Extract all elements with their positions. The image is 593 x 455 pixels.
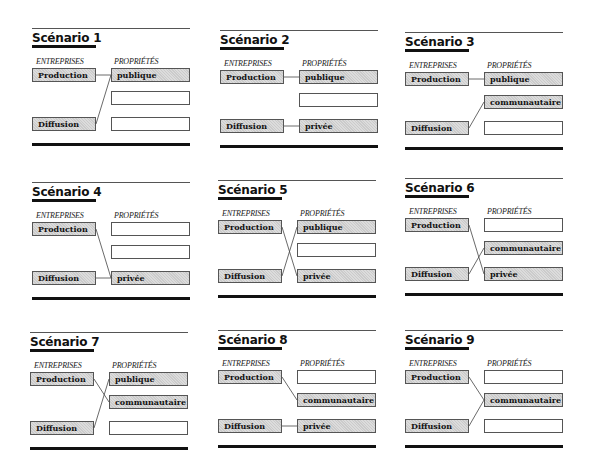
proprietes-header: PROPRIÉTÉS bbox=[487, 359, 531, 368]
title-underline bbox=[32, 199, 96, 202]
production-box: Production bbox=[220, 70, 284, 84]
property-box-1 bbox=[297, 370, 376, 384]
entreprises-header: ENTREPRISES bbox=[36, 57, 84, 66]
proprietes-header: PROPRIÉTÉS bbox=[300, 359, 344, 368]
entreprises-header: ENTREPRISES bbox=[409, 61, 457, 70]
proprietes-header: PROPRIÉTÉS bbox=[114, 211, 158, 220]
property-box-1: publique bbox=[297, 220, 376, 234]
title-underline bbox=[32, 45, 96, 48]
bottom-rule bbox=[32, 143, 190, 146]
property-box-2: communautaire bbox=[484, 95, 563, 109]
scenario-title: Scénario 1 bbox=[32, 31, 101, 45]
property-box-3: privée bbox=[297, 269, 376, 283]
title-underline bbox=[218, 347, 282, 350]
bottom-rule bbox=[220, 145, 378, 148]
scenario-panel-5: Scénario 5ENTREPRISESPROPRIÉTÉSProductio… bbox=[218, 180, 378, 305]
scenario-panel-6: Scénario 6ENTREPRISESPROPRIÉTÉSProductio… bbox=[405, 178, 565, 303]
property-box-2 bbox=[299, 93, 378, 107]
scenario-panel-3: Scénario 3ENTREPRISESPROPRIÉTÉSProductio… bbox=[405, 32, 565, 157]
title-underline bbox=[405, 49, 469, 52]
bottom-rule bbox=[405, 147, 563, 150]
scenario-title: Scénario 6 bbox=[405, 181, 474, 195]
proprietes-header: PROPRIÉTÉS bbox=[112, 361, 156, 370]
diffusion-box: Diffusion bbox=[405, 267, 469, 281]
title-underline bbox=[30, 349, 94, 352]
diffusion-box: Diffusion bbox=[32, 271, 96, 285]
property-box-2: communautaire bbox=[484, 393, 563, 407]
property-box-3 bbox=[111, 117, 190, 131]
title-underline bbox=[405, 195, 469, 198]
entreprises-header: ENTREPRISES bbox=[222, 359, 270, 368]
top-rule bbox=[405, 178, 563, 179]
diffusion-box: Diffusion bbox=[30, 421, 94, 435]
title-underline bbox=[218, 197, 282, 200]
property-box-2 bbox=[111, 245, 190, 259]
diffusion-box: Diffusion bbox=[32, 117, 96, 131]
top-rule bbox=[405, 32, 563, 33]
top-rule bbox=[32, 182, 190, 183]
entreprises-header: ENTREPRISES bbox=[409, 359, 457, 368]
property-box-1 bbox=[111, 222, 190, 236]
top-rule bbox=[32, 28, 190, 29]
scenario-panel-1: Scénario 1ENTREPRISESPROPRIÉTÉSProductio… bbox=[32, 28, 192, 153]
bottom-rule bbox=[30, 447, 188, 450]
production-box: Production bbox=[405, 370, 469, 384]
property-box-1 bbox=[484, 370, 563, 384]
production-box: Production bbox=[32, 68, 96, 82]
entreprises-header: ENTREPRISES bbox=[224, 59, 272, 68]
property-box-3: privée bbox=[299, 119, 378, 133]
property-box-1: publique bbox=[484, 72, 563, 86]
property-box-3: privée bbox=[484, 267, 563, 281]
scenario-title: Scénario 9 bbox=[405, 333, 474, 347]
bottom-rule bbox=[405, 445, 563, 448]
entreprises-header: ENTREPRISES bbox=[34, 361, 82, 370]
bottom-rule bbox=[218, 295, 376, 298]
top-rule bbox=[218, 180, 376, 181]
scenario-panel-2: Scénario 2ENTREPRISESPROPRIÉTÉSProductio… bbox=[220, 30, 380, 155]
scenario-panel-4: Scénario 4ENTREPRISESPROPRIÉTÉSProductio… bbox=[32, 182, 192, 307]
bottom-rule bbox=[218, 445, 376, 448]
production-box: Production bbox=[218, 220, 282, 234]
property-box-3 bbox=[484, 121, 563, 135]
scenario-title: Scénario 4 bbox=[32, 185, 101, 199]
property-box-2: communautaire bbox=[297, 393, 376, 407]
property-box-3 bbox=[109, 421, 188, 435]
entreprises-header: ENTREPRISES bbox=[36, 211, 84, 220]
production-box: Production bbox=[32, 222, 96, 236]
bottom-rule bbox=[405, 293, 563, 296]
property-box-3: privée bbox=[111, 271, 190, 285]
property-box-3: privée bbox=[297, 419, 376, 433]
bottom-rule bbox=[32, 297, 190, 300]
top-rule bbox=[218, 330, 376, 331]
scenario-panel-7: Scénario 7ENTREPRISESPROPRIÉTÉSProductio… bbox=[30, 332, 190, 455]
scenario-title: Scénario 5 bbox=[218, 183, 287, 197]
diffusion-box: Diffusion bbox=[405, 121, 469, 135]
entreprises-header: ENTREPRISES bbox=[409, 207, 457, 216]
production-box: Production bbox=[30, 372, 94, 386]
property-box-2 bbox=[297, 243, 376, 257]
proprietes-header: PROPRIÉTÉS bbox=[487, 61, 531, 70]
proprietes-header: PROPRIÉTÉS bbox=[300, 209, 344, 218]
property-box-3 bbox=[484, 419, 563, 433]
property-box-1: publique bbox=[299, 70, 378, 84]
diffusion-box: Diffusion bbox=[218, 419, 282, 433]
diffusion-box: Diffusion bbox=[220, 119, 284, 133]
scenario-title: Scénario 7 bbox=[30, 335, 99, 349]
diffusion-box: Diffusion bbox=[405, 419, 469, 433]
scenario-title: Scénario 3 bbox=[405, 35, 474, 49]
property-box-1: publique bbox=[111, 68, 190, 82]
proprietes-header: PROPRIÉTÉS bbox=[487, 207, 531, 216]
production-box: Production bbox=[218, 370, 282, 384]
property-box-1: publique bbox=[109, 372, 188, 386]
property-box-1 bbox=[484, 218, 563, 232]
scenario-title: Scénario 8 bbox=[218, 333, 287, 347]
title-underline bbox=[220, 47, 284, 50]
proprietes-header: PROPRIÉTÉS bbox=[114, 57, 158, 66]
top-rule bbox=[220, 30, 378, 31]
proprietes-header: PROPRIÉTÉS bbox=[302, 59, 346, 68]
diffusion-box: Diffusion bbox=[218, 269, 282, 283]
property-box-2: communautaire bbox=[109, 395, 188, 409]
entreprises-header: ENTREPRISES bbox=[222, 209, 270, 218]
production-box: Production bbox=[405, 72, 469, 86]
title-underline bbox=[405, 347, 469, 350]
